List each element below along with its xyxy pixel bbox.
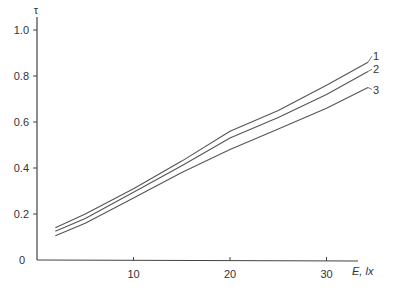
y-axis-label: τ <box>34 4 39 16</box>
y-tick-label: 1.0 <box>14 24 29 36</box>
x-axis-label: E, lx <box>352 265 374 277</box>
y-tick-label: 0 <box>19 254 25 266</box>
axes: 00.20.40.60.81.0102030 <box>14 17 358 280</box>
series-group: 123 <box>55 50 379 236</box>
y-tick-label: 0.4 <box>14 162 29 174</box>
chart-container: 00.20.40.60.81.0102030 123 τ E, lx <box>0 0 394 294</box>
x-tick-label: 20 <box>224 268 236 280</box>
series-line-1 <box>55 62 368 228</box>
y-tick-label: 0.2 <box>14 208 29 220</box>
series-line-2 <box>55 71 368 231</box>
series-line-3 <box>55 88 368 236</box>
y-tick-label: 0.6 <box>14 116 29 128</box>
series-label-3: 3 <box>373 84 379 96</box>
series-label-2: 2 <box>373 63 379 75</box>
x-tick-label: 30 <box>320 268 332 280</box>
series-label-1: 1 <box>373 50 379 62</box>
y-tick-label: 0.8 <box>14 70 29 82</box>
x-axis-line <box>37 260 358 261</box>
series-leader-3 <box>368 88 372 90</box>
line-chart: 00.20.40.60.81.0102030 123 τ E, lx <box>0 0 394 294</box>
series-leader-1 <box>368 56 372 62</box>
series-leader-2 <box>368 69 372 71</box>
x-tick-label: 10 <box>127 268 139 280</box>
